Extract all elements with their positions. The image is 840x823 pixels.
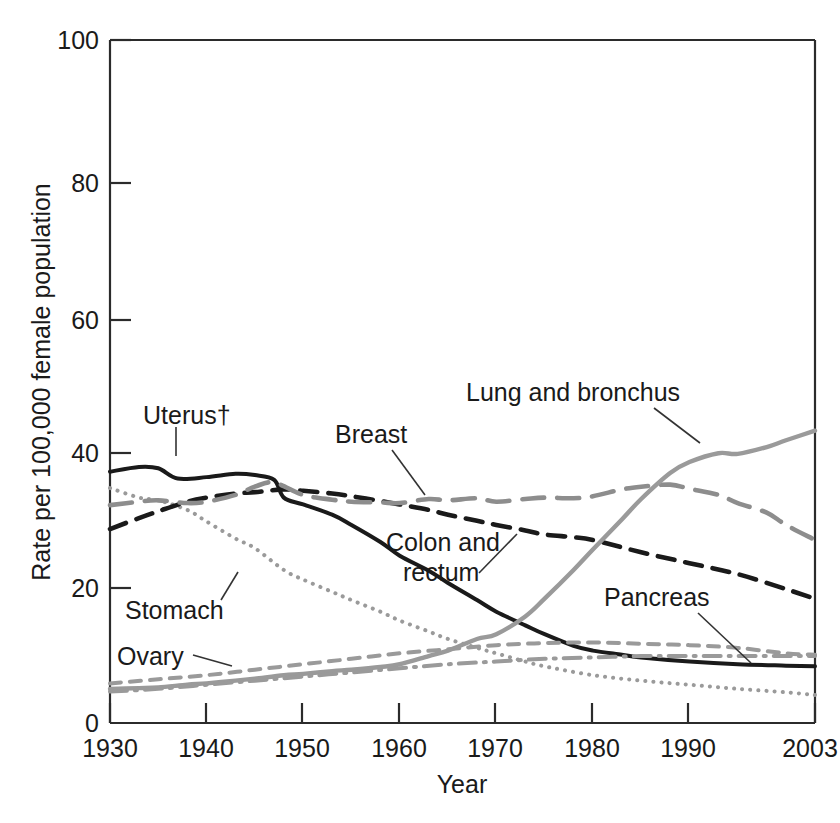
x-ticklabel-1950: 1950 [274,734,330,762]
y-ticklabel-60: 60 [71,306,99,334]
annotation-colon-line1: Colon and [386,528,500,556]
cancer-death-rates-line-chart: 100 80 60 40 20 0 1930 1940 1950 1960 19… [0,0,840,823]
annotation-stomach: Stomach [125,596,224,624]
chart-background [0,0,840,823]
y-ticklabel-0: 0 [85,709,99,737]
x-ticklabel-1990: 1990 [660,734,716,762]
y-ticklabel-40: 40 [71,439,99,467]
annotation-uterus: Uterus† [143,401,231,429]
x-ticklabel-1980: 1980 [564,734,620,762]
annotation-breast: Breast [335,420,407,448]
annotation-ovary: Ovary [117,642,184,670]
x-ticklabel-1940: 1940 [178,734,234,762]
annotation-lung: Lung and bronchus [466,378,680,406]
y-ticklabel-20: 20 [71,574,99,602]
x-ticklabel-2003: 2003 [782,734,838,762]
x-axis-title: Year [437,770,488,798]
annotation-colon-line2: rectum [403,558,479,586]
x-ticklabel-1970: 1970 [467,734,523,762]
y-ticklabel-80: 80 [71,169,99,197]
annotation-pancreas: Pancreas [604,583,710,611]
x-ticklabel-1960: 1960 [371,734,427,762]
y-ticklabel-100: 100 [57,26,99,54]
chart-figure: 100 80 60 40 20 0 1930 1940 1950 1960 19… [0,0,840,823]
x-ticklabel-1930: 1930 [82,734,138,762]
y-axis-title: Rate per 100,000 female population [27,183,55,581]
